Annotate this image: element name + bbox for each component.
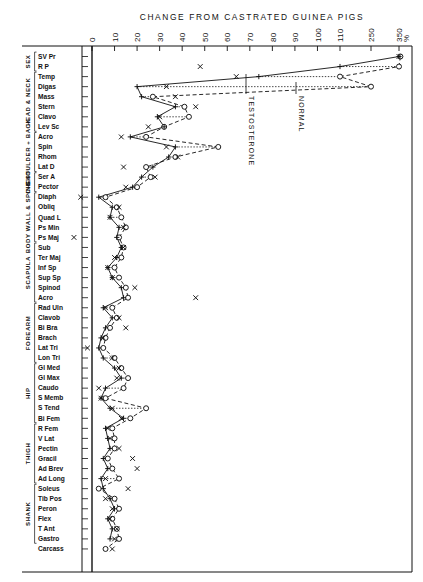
marker-plus — [256, 74, 261, 79]
marker-circle — [126, 376, 131, 381]
marker-plus — [107, 446, 112, 451]
marker-circle — [119, 255, 124, 260]
row-label: Brach — [38, 334, 57, 341]
x-tick-label: 0 — [88, 37, 97, 42]
marker-circle — [144, 134, 149, 139]
x-tick-label: 10 — [111, 32, 120, 42]
marker-circle — [144, 165, 149, 170]
marker-x — [173, 94, 178, 99]
marker-circle — [112, 446, 117, 451]
x-tick-label: 70 — [246, 32, 255, 42]
marker-circle — [112, 496, 117, 501]
marker-circle — [148, 175, 153, 180]
marker-x — [72, 235, 77, 240]
row-label: Mass — [38, 93, 55, 100]
x-tick-label: 80 — [269, 32, 278, 42]
marker-x — [114, 376, 119, 381]
x-axis: 0102030405060708090100110250350% — [88, 28, 411, 51]
row-label: Soleus — [38, 485, 60, 492]
marker-circle — [397, 64, 402, 69]
x-tick-label: 90 — [291, 32, 300, 42]
marker-x — [123, 325, 128, 330]
group-bracket — [35, 173, 37, 192]
marker-circle — [119, 215, 124, 220]
x-tick-label: 250 — [367, 28, 376, 42]
row-label: Diaph — [38, 193, 56, 201]
testosterone-annotation: TESTOSTERONE — [248, 96, 255, 166]
marker-plus — [101, 486, 106, 491]
row-label: Stern — [38, 103, 55, 110]
marker-circle — [112, 436, 117, 441]
data-markers — [72, 54, 403, 552]
row-label: Caudo — [38, 384, 59, 391]
marker-circle — [126, 295, 131, 300]
marker-plus — [107, 536, 112, 541]
row-label: Rad Uln — [38, 304, 63, 311]
marker-x — [193, 104, 198, 109]
marker-circle — [103, 396, 108, 401]
group-labels: SEXHEAD & NECKSHOULDER + BACKCHESTBODY W… — [25, 52, 37, 543]
marker-x — [126, 486, 131, 491]
marker-circle — [128, 416, 133, 421]
marker-circle — [121, 386, 126, 391]
group-bracket — [35, 303, 37, 362]
row-label: Sup Sp — [38, 274, 61, 282]
group-label: BODY WALL & SPINE — [25, 181, 31, 253]
marker-x — [103, 496, 108, 501]
row-label: Digas — [38, 83, 56, 91]
marker-x — [193, 295, 198, 300]
row-label: Clavob — [38, 314, 60, 321]
row-label: Rhom — [38, 153, 57, 160]
marker-plus — [101, 456, 106, 461]
group-bracket — [35, 243, 37, 302]
x-tick-label: 20 — [133, 32, 142, 42]
marker-circle — [96, 486, 101, 491]
marker-x — [130, 456, 135, 461]
row-label: Gastro — [38, 535, 59, 542]
row-label: Flex — [38, 515, 52, 522]
group-bracket — [35, 52, 37, 71]
marker-x — [146, 124, 151, 129]
marker-circle — [150, 94, 155, 99]
marker-plus — [337, 64, 342, 69]
group-label: SCAPULA — [25, 256, 31, 289]
x-tick-label: 30 — [156, 32, 165, 42]
row-label: Gl Max — [38, 374, 60, 381]
group-label: FOREARM — [25, 316, 31, 351]
marker-circle — [108, 325, 113, 330]
marker-plus — [134, 84, 139, 89]
marker-plus — [96, 345, 101, 350]
row-label: Ter Maj — [38, 254, 61, 262]
change-from-castrated-guinea-pigs-chart: CHANGE FROM CASTRATED GUINEA PIGS0102030… — [0, 0, 423, 582]
row-label: Tib Pos — [38, 495, 62, 502]
row-label: Lat Tri — [38, 344, 58, 351]
marker-circle — [103, 195, 108, 200]
x-tick-label: 110 — [336, 28, 345, 42]
marker-x — [96, 386, 101, 391]
marker-circle — [182, 104, 187, 109]
marker-plus — [103, 386, 108, 391]
marker-x — [110, 547, 115, 552]
marker-circle — [101, 345, 106, 350]
normal-annotation: NORMAL — [298, 96, 305, 133]
row-label: Gl Med — [38, 364, 60, 371]
row-label: S Tend — [38, 404, 60, 411]
marker-circle — [135, 185, 140, 190]
row-label: R P — [38, 63, 50, 70]
marker-x — [132, 285, 137, 290]
row-label: Temp — [38, 73, 55, 81]
row-label: Ps Min — [38, 224, 59, 231]
row-label: Carcass — [38, 545, 64, 552]
row-label: Pectin — [38, 445, 58, 452]
marker-circle — [144, 406, 149, 411]
row-label: Lat D — [38, 163, 55, 170]
row-label: Ps Maj — [38, 234, 59, 242]
row-label: Ser A — [38, 173, 55, 180]
figure-panel: CHANGE FROM CASTRATED GUINEA PIGS0102030… — [0, 0, 423, 582]
group-bracket — [35, 364, 37, 423]
row-label: Acro — [38, 133, 53, 140]
x-tick-label: 50 — [201, 32, 210, 42]
marker-circle — [117, 536, 122, 541]
marker-circle — [117, 476, 122, 481]
marker-circle — [216, 144, 221, 149]
